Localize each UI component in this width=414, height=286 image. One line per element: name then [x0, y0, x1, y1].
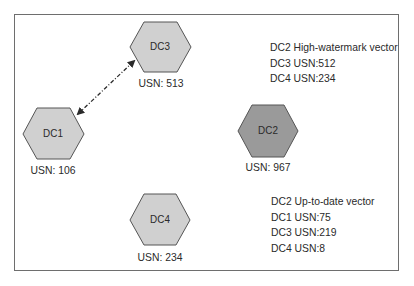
dc3-node-label: DC3 [133, 40, 187, 52]
high-watermark-vector: DC2 High-watermark vector DC3 USN:512 DC… [270, 40, 398, 87]
dc1-usn-label: USN: 106 [17, 164, 89, 176]
high-watermark-entry: DC4 USN:234 [270, 71, 398, 87]
up-to-date-vector: DC2 Up-to-date vector DC1 USN:75 DC3 USN… [271, 194, 375, 256]
up-to-date-entry: DC4 USN:8 [271, 241, 375, 257]
up-to-date-title: DC2 Up-to-date vector [271, 194, 375, 210]
high-watermark-entry: DC3 USN:512 [270, 56, 398, 72]
up-to-date-entry: DC3 USN:219 [271, 225, 375, 241]
dc2-node-label: DC2 [241, 124, 295, 136]
dc3-usn-label: USN: 513 [125, 77, 197, 89]
dc4-node-label: DC4 [133, 213, 187, 225]
replication-diagram: DC3 USN: 513 DC1 USN: 106 DC2 USN: 967 D… [0, 0, 414, 286]
dc4-usn-label: USN: 234 [124, 251, 196, 263]
high-watermark-title: DC2 High-watermark vector [270, 40, 398, 56]
dc2-usn-label: USN: 967 [232, 161, 304, 173]
up-to-date-entry: DC1 USN:75 [271, 210, 375, 226]
dc1-node-label: DC1 [26, 127, 80, 139]
